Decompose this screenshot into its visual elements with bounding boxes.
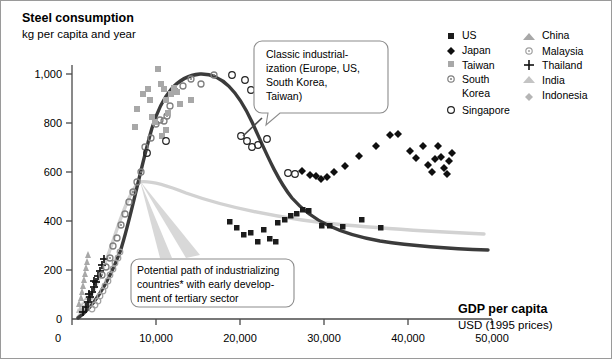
legend-label-japan: Japan [462,44,491,56]
callout-classic-line-2: ization (Europe, US, [266,62,360,74]
legend-label-indonesia: Indonesia [542,89,588,101]
chart-title: Steel consumption [22,11,134,25]
legend-marker-singapore [448,107,455,114]
x-axis-label-main: GDP per capita [458,302,548,316]
y-tick-0: 0 [56,313,62,325]
legend-marker-china [523,33,535,40]
callout-classic-industrialization: Classic industrial- ization (Europe, US,… [243,41,388,136]
chart-subtitle: kg per capita and year [22,28,136,40]
legend-marker-thailand [524,60,534,70]
x-tick-30000: 30,000 [307,332,341,344]
y-tick-600: 600 [44,166,62,178]
callout-potential-line-2: countries* with early develop- [137,278,275,290]
callout-classic-line-3: South Korea, [266,76,327,88]
callout-potential-line-1: Potential path of industrializing [137,264,280,276]
legend-label-thailand: Thailand [542,59,582,71]
callout-potential-path: Potential path of industrializing countr… [131,259,294,307]
chart-root: Steel consumption kg per capita and year… [0,0,612,359]
y-tick-400: 400 [44,215,62,227]
potential-callout-pointer [140,181,200,258]
series-japan [298,130,456,183]
legend-label-singapore: Singapore [462,104,510,116]
legend-label-us: US [462,29,477,41]
legend-marker-us [448,33,454,39]
legend-marker-taiwan [448,61,454,67]
legend-label-india: India [542,74,565,86]
legend-label-china: China [542,29,570,41]
callout-potential-line-3: ment of tertiary sector [137,292,239,304]
x-axis-label-sub: USD (1995 prices) [458,319,553,331]
x-tick-40000: 40,000 [391,332,425,344]
legend-label-korea: Korea [462,87,490,99]
x-tick-20000: 20,000 [223,332,257,344]
legend-marker-japan [447,47,455,55]
legend-label-malaysia: Malaysia [542,45,584,57]
legend-marker-indonesia [525,93,533,101]
legend-marker-south-korea [448,76,454,82]
y-axis-tick-labels: 1,000 800 600 400 200 0 [34,68,62,325]
legend-marker-india [523,76,535,83]
legend-marker-malaysia [526,48,532,54]
x-tick-0: 0 [55,332,61,344]
x-tick-10000: 10,000 [139,332,173,344]
steel-consumption-chart: Steel consumption kg per capita and year… [0,0,612,359]
callout-classic-line-4: Taiwan) [266,90,302,102]
y-tick-1000: 1,000 [34,68,62,80]
legend-label-south: South [462,73,490,85]
x-tick-50000: 50,000 [475,332,509,344]
y-tick-200: 200 [44,264,62,276]
callout-classic-line-1: Classic industrial- [266,48,349,60]
y-tick-800: 800 [44,117,62,129]
legend: US Japan Taiwan South Korea Singapore Ch… [447,29,588,116]
legend-label-taiwan: Taiwan [462,59,495,71]
x-axis-tick-labels: 0 10,000 20,000 30,000 40,000 50,000 [55,332,509,344]
